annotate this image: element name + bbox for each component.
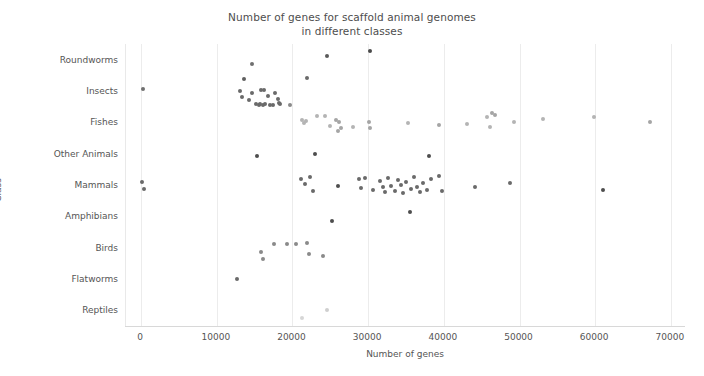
data-point: [313, 152, 317, 156]
gridline-x-60000: [595, 44, 596, 326]
data-point: [315, 114, 319, 118]
data-point: [305, 241, 309, 245]
data-point: [271, 103, 275, 107]
gridline-x-10000: [217, 44, 218, 326]
data-point: [465, 122, 469, 126]
data-point: [325, 54, 329, 58]
data-point: [285, 242, 289, 246]
data-point: [427, 154, 431, 158]
data-point: [440, 189, 444, 193]
data-point: [330, 219, 334, 223]
x-tick-label: 40000: [429, 332, 458, 342]
data-point: [261, 257, 265, 261]
data-point: [368, 126, 372, 130]
x-tick-label: 10000: [201, 332, 230, 342]
data-point: [408, 210, 412, 214]
data-point: [368, 49, 372, 53]
data-point: [437, 123, 441, 127]
data-point: [308, 175, 312, 179]
data-point: [337, 120, 341, 124]
data-point: [473, 185, 477, 189]
data-point: [250, 91, 254, 95]
data-point: [307, 252, 311, 256]
data-point: [648, 120, 652, 124]
scatter-plot-figure: Number of genes for scaffold animal geno…: [0, 0, 704, 376]
data-point: [299, 177, 303, 181]
data-point: [323, 114, 327, 118]
data-point: [404, 180, 408, 184]
data-point: [401, 191, 405, 195]
data-point: [601, 188, 605, 192]
data-point: [273, 91, 277, 95]
x-tick-label: 60000: [580, 332, 609, 342]
data-point: [512, 120, 516, 124]
data-point: [488, 125, 492, 129]
data-point: [493, 113, 497, 117]
data-point: [235, 277, 239, 281]
data-point: [508, 181, 512, 185]
data-point: [437, 174, 441, 178]
data-point: [409, 187, 413, 191]
data-point: [262, 88, 266, 92]
x-tick-label: 50000: [504, 332, 533, 342]
data-point: [259, 250, 263, 254]
data-point: [266, 94, 270, 98]
gridline-x-40000: [444, 44, 445, 326]
gridline-x-30000: [368, 44, 369, 326]
gridline-x-20000: [292, 44, 293, 326]
data-point: [415, 185, 419, 189]
data-point: [406, 121, 410, 125]
data-point: [359, 186, 363, 190]
data-point: [371, 188, 375, 192]
data-point: [300, 316, 304, 320]
data-point: [425, 188, 429, 192]
data-point: [383, 190, 387, 194]
data-point: [367, 120, 371, 124]
x-tick-label: 70000: [656, 332, 685, 342]
data-point: [305, 76, 309, 80]
data-point: [336, 184, 340, 188]
data-point: [389, 184, 393, 188]
data-point: [541, 117, 545, 121]
data-point: [240, 95, 244, 99]
data-point: [255, 154, 259, 158]
gridline-x-70000: [671, 44, 672, 326]
data-point: [304, 119, 308, 123]
y-tick-label-insects: Insects: [86, 86, 118, 96]
data-point: [294, 242, 298, 246]
y-tick-label-mammals: Mammals: [74, 180, 118, 190]
data-point: [336, 129, 340, 133]
y-tick-label-amphibians: Amphibians: [65, 211, 118, 221]
y-tick-label-fishes: Fishes: [90, 117, 118, 127]
gridline-x-50000: [520, 44, 521, 326]
data-point: [399, 183, 403, 187]
plot-area: [125, 44, 685, 326]
data-point: [429, 177, 433, 181]
data-point: [393, 189, 397, 193]
data-point: [250, 62, 254, 66]
data-point: [242, 77, 246, 81]
data-point: [485, 115, 489, 119]
data-point: [141, 87, 145, 91]
data-point: [381, 185, 385, 189]
data-point: [396, 178, 400, 182]
data-point: [303, 182, 307, 186]
data-point: [142, 187, 146, 191]
y-tick-label-other-animals: Other Animals: [54, 149, 118, 159]
data-point: [238, 89, 242, 93]
data-point: [311, 189, 315, 193]
x-axis-title: Number of genes: [125, 349, 685, 359]
data-point: [363, 176, 367, 180]
data-point: [412, 175, 416, 179]
y-tick-label-flatworms: Flatworms: [71, 274, 118, 284]
data-point: [325, 308, 329, 312]
y-axis-title: Class: [0, 178, 3, 202]
y-tick-label-reptiles: Reptiles: [82, 305, 118, 315]
y-tick-label-roundworms: Roundworms: [60, 55, 118, 65]
x-tick-label: 0: [137, 332, 143, 342]
data-point: [140, 180, 144, 184]
data-point: [247, 98, 251, 102]
data-point: [278, 102, 282, 106]
data-point: [328, 124, 332, 128]
data-point: [378, 179, 382, 183]
